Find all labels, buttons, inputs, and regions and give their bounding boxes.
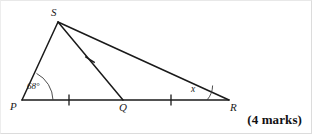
angle-arc-R <box>207 86 213 101</box>
figure-frame: S P Q R 68° x (4 marks) <box>0 0 312 134</box>
segment-SQ <box>58 22 123 100</box>
vertex-label-r: R <box>230 102 237 113</box>
vertex-label-p: P <box>10 101 17 112</box>
tick-mark-sq <box>85 57 95 63</box>
angle-label-x: x <box>191 85 195 95</box>
angle-label-p: 68° <box>27 82 40 91</box>
segment-SR <box>58 22 229 100</box>
vertex-label-q: Q <box>119 102 127 113</box>
marks-note: (4 marks) <box>247 112 302 128</box>
vertex-label-s: S <box>51 7 57 18</box>
